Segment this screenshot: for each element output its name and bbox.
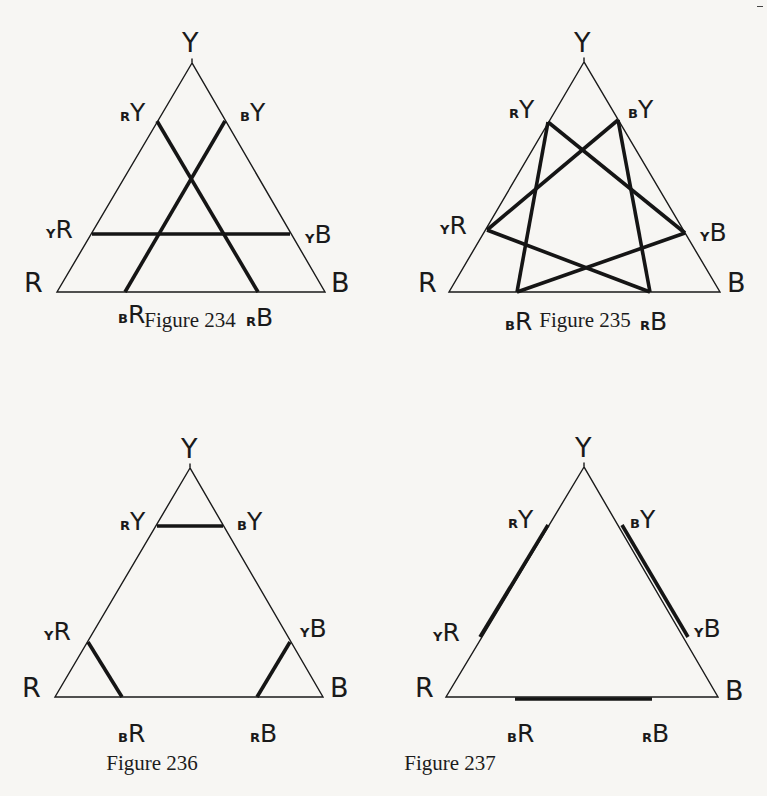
label-main: Y bbox=[639, 505, 656, 534]
vertex-label-bR: BR bbox=[118, 300, 145, 329]
thick-line-rY-bR bbox=[517, 122, 548, 292]
figure-caption: Figure 237 bbox=[404, 751, 496, 775]
vertex-label-rB: RB bbox=[250, 719, 277, 748]
label-subscript: Y bbox=[439, 222, 450, 237]
label-subscript: Y bbox=[693, 625, 704, 640]
label-main: R bbox=[55, 215, 72, 244]
label-main: Y bbox=[637, 95, 654, 124]
vertex-label-bY: BY bbox=[630, 505, 656, 534]
label-subscript: Y bbox=[43, 628, 54, 643]
vertex-label-bR: BR bbox=[507, 719, 534, 748]
label-subscript: R bbox=[509, 106, 519, 121]
thick-line-bY-yR bbox=[487, 120, 618, 230]
vertex-label-rB: RB bbox=[640, 307, 667, 336]
vertex-label-Y: Y bbox=[573, 27, 591, 58]
figure-236: YRYBYYRYBRBBRRBFigure 236 bbox=[22, 433, 349, 775]
label-main: R bbox=[442, 618, 459, 647]
vertex-label-yB: YB bbox=[299, 614, 327, 643]
label-subscript: R bbox=[246, 314, 256, 329]
label-subscript: B bbox=[240, 109, 250, 124]
label-subscript: B bbox=[118, 311, 128, 326]
label-main: Y bbox=[129, 507, 146, 536]
label-subscript: B bbox=[237, 518, 247, 533]
vertex-label-R: R bbox=[418, 267, 437, 298]
thick-line-bY-bR bbox=[125, 121, 225, 292]
vertex-label-rB: RB bbox=[642, 719, 669, 748]
vertex-label-Y: Y bbox=[574, 432, 592, 463]
label-main: B bbox=[314, 220, 331, 249]
label-main: Y bbox=[518, 95, 535, 124]
label-subscript: Y bbox=[699, 229, 710, 244]
vertex-label-B: B bbox=[330, 672, 349, 703]
label-main: B bbox=[703, 614, 720, 643]
label-subscript: Y bbox=[45, 226, 56, 241]
triangle-outline bbox=[55, 468, 323, 697]
vertex-label-rB: RB bbox=[246, 303, 273, 332]
vertex-label-bR: BR bbox=[505, 307, 532, 336]
vertex-label-R: R bbox=[24, 267, 43, 298]
vertex-label-yB: YB bbox=[304, 220, 332, 249]
figure-page: YRYBYYRYBRBBRRBFigure 234 YRYBYYRYBRBBRR… bbox=[0, 0, 767, 796]
label-subscript: Y bbox=[432, 629, 443, 644]
label-subscript: R bbox=[250, 730, 260, 745]
thick-line-rY-rB bbox=[157, 121, 258, 292]
label-main: R bbox=[517, 719, 534, 748]
triangle-outline bbox=[446, 467, 718, 697]
thick-line-yB-bR bbox=[517, 233, 685, 292]
label-subscript: R bbox=[642, 730, 652, 745]
label-main: B bbox=[652, 719, 669, 748]
label-subscript: R bbox=[120, 109, 130, 124]
thick-line-yB-rB bbox=[257, 642, 290, 697]
label-subscript: B bbox=[630, 516, 640, 531]
label-main: B bbox=[309, 614, 326, 643]
label-main: R bbox=[128, 300, 145, 329]
vertex-label-rY: RY bbox=[120, 507, 146, 536]
vertex-label-yR: YR bbox=[432, 618, 460, 647]
label-main: B bbox=[650, 307, 667, 336]
vertex-label-R: R bbox=[415, 672, 434, 703]
label-subscript: R bbox=[640, 318, 650, 333]
vertex-label-yB: YB bbox=[699, 218, 727, 247]
vertex-label-Y: Y bbox=[180, 433, 198, 464]
vertex-label-B: B bbox=[331, 267, 350, 298]
vertex-label-rY: RY bbox=[508, 505, 534, 534]
figure-caption: Figure 236 bbox=[106, 751, 198, 775]
figure-caption: Figure 235 bbox=[539, 308, 631, 332]
label-main: Y bbox=[249, 98, 266, 127]
label-subscript: B bbox=[505, 318, 515, 333]
label-subscript: B bbox=[507, 730, 517, 745]
vertex-label-B: B bbox=[727, 267, 746, 298]
label-main: R bbox=[515, 307, 532, 336]
label-main: Y bbox=[129, 98, 146, 127]
label-main: R bbox=[128, 719, 145, 748]
label-subscript: Y bbox=[299, 625, 310, 640]
vertex-label-Y: Y bbox=[181, 27, 199, 58]
vertex-label-rY: RY bbox=[509, 95, 535, 124]
figure-235: YRYBYYRYBRBBRRBFigure 235 bbox=[418, 27, 746, 336]
vertex-label-yR: YR bbox=[439, 211, 467, 240]
figure-234: YRYBYYRYBRBBRRBFigure 234 bbox=[24, 27, 350, 332]
vertex-label-bY: BY bbox=[240, 98, 266, 127]
figure-caption: Figure 234 bbox=[144, 308, 236, 332]
thick-line-bY-yB bbox=[622, 525, 688, 637]
thick-line-yR-bR bbox=[88, 642, 122, 697]
label-subscript: R bbox=[508, 516, 518, 531]
vertex-label-bY: BY bbox=[628, 95, 654, 124]
thick-line-rY-yR bbox=[480, 525, 548, 637]
label-main: B bbox=[256, 303, 273, 332]
label-subscript: Y bbox=[304, 231, 315, 246]
label-subscript: B bbox=[628, 106, 638, 121]
thick-line-rY-yB bbox=[548, 122, 685, 233]
triangle-outline bbox=[449, 62, 720, 292]
vertex-label-yB: YB bbox=[693, 614, 721, 643]
label-main: Y bbox=[517, 505, 534, 534]
label-main: B bbox=[260, 719, 277, 748]
label-subscript: R bbox=[120, 518, 130, 533]
vertex-label-R: R bbox=[22, 672, 41, 703]
label-main: B bbox=[709, 218, 726, 247]
vertex-label-rY: RY bbox=[120, 98, 146, 127]
figure-237: YRYBYYRYBRBBRRBFigure 237 bbox=[404, 432, 743, 775]
vertex-label-yR: YR bbox=[43, 617, 71, 646]
label-subscript: B bbox=[118, 730, 128, 745]
label-main: R bbox=[53, 617, 70, 646]
